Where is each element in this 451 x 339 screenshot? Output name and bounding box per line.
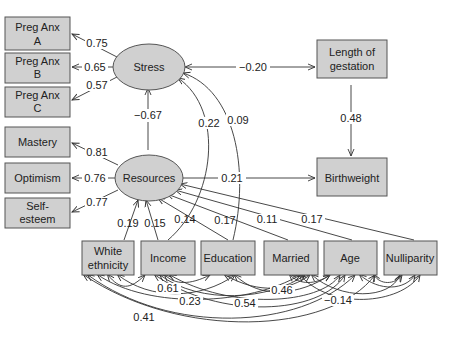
svg-text:0.46: 0.46 — [271, 284, 292, 296]
svg-text:Age: Age — [340, 252, 360, 264]
node-nulliparity: Nulliparity — [384, 241, 437, 275]
svg-text:Resources: Resources — [123, 172, 176, 184]
node-length-of-gestation: Length of gestation — [317, 40, 387, 78]
svg-text:0.17: 0.17 — [301, 213, 322, 225]
svg-text:0.61: 0.61 — [157, 282, 178, 294]
svg-text:Nulliparity: Nulliparity — [386, 252, 435, 264]
latent-resources: Resources — [115, 155, 183, 201]
svg-text:Married: Married — [272, 252, 309, 264]
svg-text:Preg Anx: Preg Anx — [15, 21, 60, 33]
svg-text:0.22: 0.22 — [198, 117, 219, 129]
svg-text:Education: Education — [204, 252, 253, 264]
svg-text:Preg Anx: Preg Anx — [15, 89, 60, 101]
svg-text:0.15: 0.15 — [144, 217, 165, 229]
svg-text:Optimism: Optimism — [14, 172, 60, 184]
svg-text:0.48: 0.48 — [340, 112, 361, 124]
node-income: Income — [141, 241, 195, 275]
svg-text:Birthweight: Birthweight — [325, 172, 379, 184]
latent-stress: Stress — [113, 44, 185, 90]
svg-text:0.21: 0.21 — [221, 172, 242, 184]
node-white-ethnicity: White ethnicity — [82, 241, 134, 275]
svg-text:0.75: 0.75 — [86, 37, 107, 49]
svg-text:−0.67: −0.67 — [134, 109, 162, 121]
node-mastery: Mastery — [5, 127, 70, 157]
svg-text:esteem: esteem — [19, 213, 55, 225]
svg-text:−0.20: −0.20 — [239, 61, 267, 73]
svg-text:0.81: 0.81 — [86, 146, 107, 158]
node-self-esteem: Self- esteem — [5, 198, 70, 228]
node-birthweight: Birthweight — [317, 158, 387, 196]
svg-text:0.41: 0.41 — [133, 311, 154, 323]
svg-text:0.17: 0.17 — [214, 214, 235, 226]
svg-text:Self-: Self- — [26, 200, 49, 212]
svg-text:Preg Anx: Preg Anx — [15, 55, 60, 67]
svg-text:0.14: 0.14 — [174, 213, 195, 225]
svg-text:0.19: 0.19 — [117, 217, 138, 229]
svg-text:0.09: 0.09 — [227, 114, 248, 126]
svg-text:0.77: 0.77 — [86, 196, 107, 208]
node-education: Education — [201, 241, 255, 275]
svg-text:−0.14: −0.14 — [324, 294, 352, 306]
node-preg-anx-c: Preg Anx C — [5, 87, 70, 117]
node-age: Age — [324, 241, 377, 275]
svg-text:0.23: 0.23 — [179, 295, 200, 307]
node-preg-anx-a: Preg Anx A — [5, 17, 70, 50]
svg-text:Length of: Length of — [329, 46, 376, 58]
svg-text:Stress: Stress — [133, 61, 165, 73]
svg-text:A: A — [34, 35, 42, 47]
node-preg-anx-b: Preg Anx B — [5, 53, 70, 83]
svg-text:ethnicity: ethnicity — [88, 259, 129, 271]
svg-text:Mastery: Mastery — [18, 136, 58, 148]
node-optimism: Optimism — [5, 163, 70, 193]
svg-text:C: C — [34, 102, 42, 114]
sem-path-diagram: Preg Anx A Preg Anx B Preg Anx C Mastery… — [0, 0, 451, 339]
svg-text:B: B — [34, 68, 41, 80]
node-married: Married — [264, 241, 318, 275]
svg-text:Income: Income — [150, 252, 186, 264]
svg-text:0.54: 0.54 — [234, 297, 255, 309]
svg-text:gestation: gestation — [330, 60, 375, 72]
svg-text:0.57: 0.57 — [86, 79, 107, 91]
svg-text:0.76: 0.76 — [84, 172, 105, 184]
svg-text:0.11: 0.11 — [257, 213, 278, 225]
svg-text:0.65: 0.65 — [84, 61, 105, 73]
svg-text:White: White — [94, 245, 122, 257]
